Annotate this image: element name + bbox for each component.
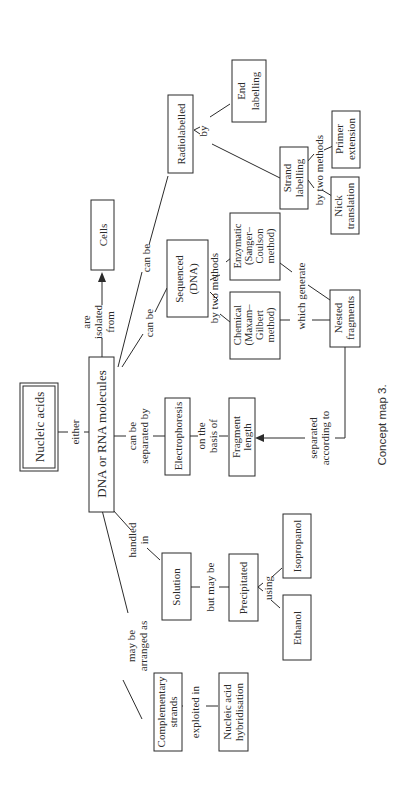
node-label-line: End [235, 82, 247, 100]
node-sequenced-dna[interactable]: Sequenced (DNA) [167, 240, 208, 317]
link-which-generate: which generate [295, 262, 307, 329]
link-can-be-sequenced: can be [143, 309, 155, 338]
link-may-be-arranged-as: may be [125, 630, 137, 662]
node-complementary-strands[interactable]: Complementary strands [154, 673, 182, 751]
link-on-the-basis-of: basis of [207, 419, 219, 453]
node-nested-fragments[interactable]: Nested fragments [330, 290, 360, 347]
node-label-line: Strand [281, 163, 293, 192]
node-label-line: length [241, 423, 253, 451]
node-label-line: translation [344, 182, 356, 229]
node-label-line: labelling [293, 158, 305, 197]
node-label-line: labelling [249, 71, 261, 110]
link-may-be-arranged-as: arranged as [137, 621, 149, 671]
node-label-line: Nick [332, 195, 344, 217]
link-can-be-separated-by: separated by [138, 408, 150, 464]
link-separated-according-to: according to [319, 410, 331, 465]
link-using: using [262, 576, 274, 600]
node-label-line: (DNA) [187, 263, 200, 294]
concept-map: Nucleic acids DNA or RNA molecules Cells… [0, 0, 412, 798]
node-primer-extension[interactable]: Primer extension [332, 111, 360, 168]
link-separated-according-to: separated [307, 417, 319, 459]
node-label-line: Nested [332, 302, 344, 333]
node-cells[interactable]: Cells [91, 200, 114, 270]
link-by-two-methods-strand: by two methods [313, 135, 325, 205]
link-are-isolated-from: are [80, 315, 92, 329]
node-dna-rna-molecules[interactable]: DNA or RNA molecules [89, 357, 114, 512]
link-are-isolated-from: isolated [92, 304, 104, 339]
node-label-line: strands [167, 696, 179, 727]
node-label-line: Complementary [155, 676, 167, 747]
node-label-line: method) [265, 228, 277, 263]
node-fragment-length[interactable]: Fragment length [229, 398, 255, 476]
node-end-labelling[interactable]: End labelling [232, 60, 266, 122]
node-label: Precipitated [237, 561, 249, 614]
link-but-may-be: but may be [204, 562, 216, 611]
link-exploited-in: exploited in [189, 685, 201, 738]
node-radiolabelled[interactable]: Radiolabelled [168, 95, 193, 173]
link-can-be-radiolabelled: can be [140, 244, 152, 273]
node-label: DNA or RNA molecules [94, 370, 109, 497]
link-on-the-basis-of: on the [195, 422, 207, 449]
node-label-line: Enzymatic [232, 223, 243, 268]
node-label-line: Nucleic acid [221, 684, 233, 740]
node-label: Cells [97, 224, 109, 247]
node-ethanol[interactable]: Ethanol [283, 595, 311, 660]
node-enzymatic-method[interactable]: Enzymatic (Sanger– Coulson method) [230, 213, 280, 280]
link-by: by [197, 125, 209, 137]
node-nick-translation[interactable]: Nick translation [331, 177, 359, 234]
node-label: Electrophoresis [172, 402, 184, 470]
link-either: either [69, 419, 81, 444]
node-label: Radiolabelled [175, 103, 187, 165]
link-can-be-separated-by: can be [126, 422, 138, 451]
link-handled-in: in [138, 535, 150, 544]
node-strand-labelling[interactable]: Strand labelling [280, 147, 308, 209]
node-label-line: Coulson [254, 228, 265, 264]
node-electrophoresis[interactable]: Electrophoresis [165, 398, 190, 475]
node-nucleic-acids[interactable]: Nucleic acids [20, 383, 58, 471]
node-label-line: Primer [333, 124, 345, 154]
node-chemical-method[interactable]: Chemical (Maxam– Gilbert method) [230, 292, 280, 359]
node-precipitated[interactable]: Precipitated [229, 554, 258, 621]
node-label-line: hybridisation [233, 682, 245, 741]
node-solution[interactable]: Solution [162, 553, 191, 620]
link-by-two-methods-sequenced: by two methods [208, 253, 220, 323]
node-label: Solution [170, 568, 182, 606]
figure-caption: Concept map 3. [376, 384, 388, 465]
node-label-line: method) [265, 307, 277, 342]
node-label: Ethanol [291, 611, 303, 645]
node-label: Isopropanol [291, 520, 303, 573]
node-isopropanol[interactable]: Isopropanol [283, 514, 311, 578]
node-label: Nucleic acids [32, 392, 47, 462]
node-label-line: Chemical [232, 305, 243, 345]
node-label-line: Gilbert [254, 310, 265, 340]
node-label-line: fragments [344, 296, 356, 340]
node-nucleic-acid-hybridisation[interactable]: Nucleic acid hybridisation [219, 673, 248, 751]
link-are-isolated-from: from [104, 311, 116, 333]
node-label-line: Sequenced [173, 255, 185, 303]
node-label-line: extension [345, 117, 357, 160]
link-handled-in: handled [126, 522, 138, 557]
